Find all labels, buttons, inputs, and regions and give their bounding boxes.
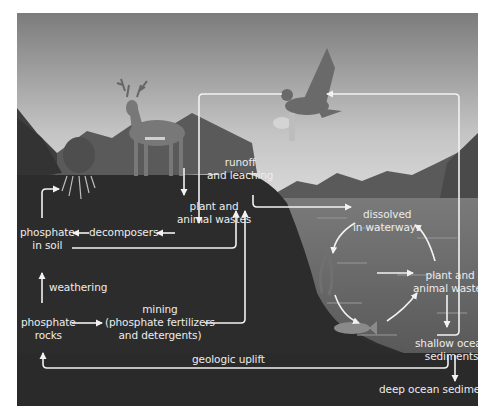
- phosphorus-cycle-diagram: runoff and leaching plant and animal was…: [17, 13, 478, 406]
- label-weathering: weathering: [49, 281, 107, 294]
- label-deep-ocean-sediments: deep ocean sediments: [379, 383, 478, 396]
- label-dissolved-in-waterways: dissolved in waterways: [353, 208, 421, 234]
- label-shallow-ocean-sediments: shallow ocean sediments: [415, 337, 478, 363]
- label-phosphate-in-soil: phosphate in soil: [20, 226, 75, 252]
- label-geologic-uplift: geologic uplift: [192, 353, 265, 366]
- label-phosphate-rocks: phosphate rocks: [21, 316, 76, 342]
- label-mining: mining (phosphate fertilizers and deterg…: [105, 303, 215, 342]
- label-plant-animal-wastes-water: plant and animal wastes: [413, 269, 478, 295]
- label-decomposers: decomposers: [89, 226, 158, 239]
- label-plant-animal-wastes-land: plant and animal wastes: [177, 200, 251, 226]
- label-runoff: runoff and leaching: [207, 156, 273, 182]
